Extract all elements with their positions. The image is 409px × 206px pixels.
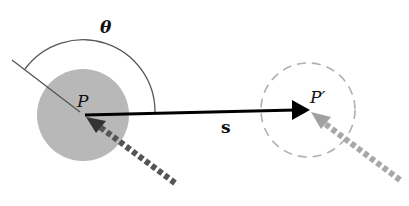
angle-label: θ [100,17,112,37]
displacement-diagram: θ P P′ s [0,0,409,206]
point-p-label: P [76,91,89,111]
incoming-arrow-end [324,123,400,180]
point-p-prime-label: P′ [309,87,325,107]
displacement-arrowhead-icon [292,100,310,120]
displacement-label: s [221,117,231,137]
